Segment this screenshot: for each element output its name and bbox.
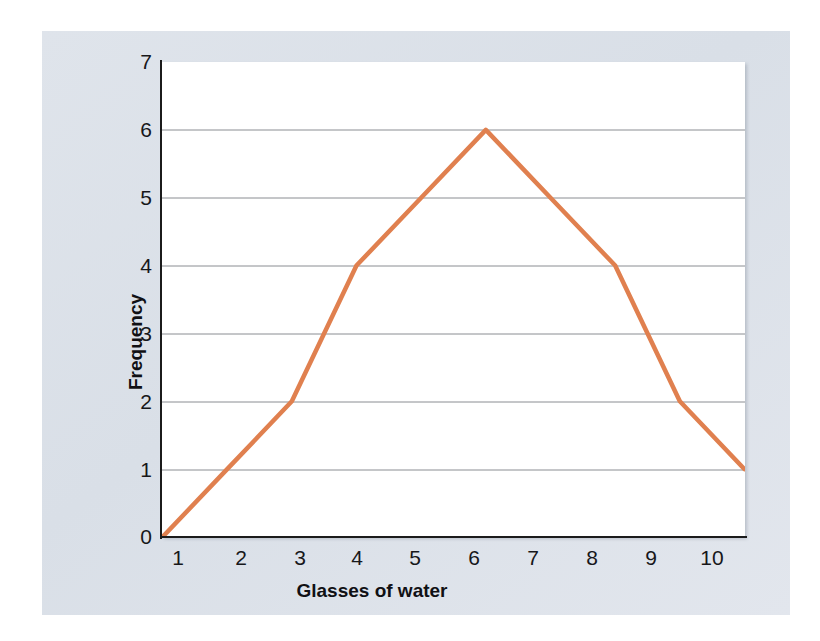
x-tick-2: 2 bbox=[218, 546, 264, 570]
x-tick-8: 8 bbox=[569, 546, 615, 570]
frequency-line-series bbox=[163, 130, 745, 537]
y-axis-tick-labels: 7 6 5 4 3 2 1 0 bbox=[108, 0, 152, 641]
x-tick-5: 5 bbox=[392, 546, 438, 570]
plot-area bbox=[162, 62, 745, 537]
y-axis-line bbox=[160, 60, 162, 539]
x-tick-9: 9 bbox=[628, 546, 674, 570]
y-tick-5: 5 bbox=[112, 186, 152, 210]
y-tick-2: 2 bbox=[112, 390, 152, 414]
x-tick-4: 4 bbox=[334, 546, 380, 570]
x-axis-tick-labels: 1 2 3 4 5 6 7 8 9 10 bbox=[0, 546, 820, 576]
y-tick-7: 7 bbox=[112, 50, 152, 74]
x-tick-1: 1 bbox=[155, 546, 201, 570]
chart-screenshot: Frequency 7 6 5 4 3 2 1 0 1 2 3 4 bbox=[0, 0, 820, 641]
y-tick-4: 4 bbox=[112, 254, 152, 278]
gridlines bbox=[162, 130, 745, 470]
chart-svg bbox=[162, 62, 745, 537]
x-tick-10: 10 bbox=[689, 546, 735, 570]
x-axis-title: Glasses of water bbox=[162, 580, 582, 602]
y-tick-1: 1 bbox=[112, 458, 152, 482]
x-tick-6: 6 bbox=[451, 546, 497, 570]
x-axis-line bbox=[160, 536, 747, 538]
y-tick-3: 3 bbox=[112, 322, 152, 346]
x-tick-7: 7 bbox=[510, 546, 556, 570]
x-tick-3: 3 bbox=[277, 546, 323, 570]
y-tick-6: 6 bbox=[112, 118, 152, 142]
